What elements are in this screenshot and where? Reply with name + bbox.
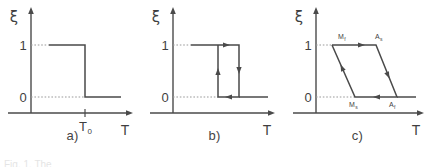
hysteresis-loop-rectangular [191, 45, 239, 97]
step-transition-curve [49, 45, 121, 97]
footer-caption-fragment: Fig. 1. The [4, 159, 234, 167]
arrow-austenite-down [384, 71, 389, 78]
label-Af: Af [389, 101, 396, 110]
y-axis-arrowhead [313, 7, 319, 14]
arrow-left-up [215, 68, 220, 75]
y-axis-arrowhead [28, 7, 34, 14]
y-axis-label: ξ [295, 8, 303, 26]
panel-b: ξ 1 0 T b) [142, 0, 287, 167]
panel-caption-a: a) [0, 128, 145, 143]
y-axis-label: ξ [10, 8, 18, 26]
arrow-bottom-left [225, 94, 232, 99]
arrow-top-right [223, 42, 230, 47]
y-tick-label-0: 0 [304, 90, 311, 105]
arrow-bottom-left [373, 94, 380, 99]
panel-caption-c: c) [285, 128, 430, 143]
panel-c: Mf As Ms Af ξ 1 0 T c) [285, 0, 430, 167]
label-Mf: Mf [338, 33, 346, 42]
panel-caption-b: b) [142, 128, 287, 143]
panel-a: ξ 1 0 T0 T a) [0, 0, 145, 167]
y-tick-label-0: 0 [19, 90, 26, 105]
y-tick-label-1: 1 [304, 38, 311, 53]
x-axis-arrowhead [417, 110, 424, 116]
y-axis-arrowhead [170, 7, 176, 14]
arrow-martensite-up [341, 65, 346, 72]
label-As: As [375, 33, 383, 42]
x-axis-arrowhead [268, 110, 275, 116]
y-tick-label-1: 1 [19, 38, 26, 53]
figure-root: ξ 1 0 T0 T a) ξ 1 0 T [0, 0, 430, 167]
label-Ms: Ms [349, 101, 358, 110]
y-tick-label-0: 0 [161, 90, 168, 105]
arrow-top-right [358, 42, 365, 47]
x-axis-arrowhead [126, 110, 133, 116]
y-tick-label-1: 1 [161, 38, 168, 53]
arrow-right-down [236, 67, 241, 74]
y-axis-label: ξ [152, 8, 160, 26]
